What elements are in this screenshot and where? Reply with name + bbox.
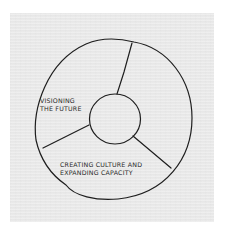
spoke-top — [117, 43, 132, 94]
label-creating-culture: CREATING CULTURE AND EXPANDING CAPACITY — [60, 161, 142, 177]
label-visioning-the-future: VISIONING THE FUTURE — [40, 97, 82, 113]
spoke-left — [43, 125, 89, 148]
ring-diagram — [0, 0, 228, 236]
label-line: EXPANDING CAPACITY — [60, 169, 142, 177]
label-line: THE FUTURE — [40, 105, 82, 113]
label-line: VISIONING — [40, 97, 82, 105]
label-line: CREATING CULTURE AND — [60, 161, 142, 169]
